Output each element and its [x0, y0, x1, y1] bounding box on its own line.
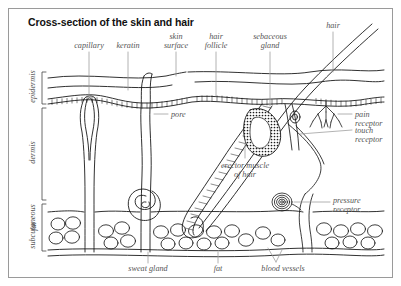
sebaceous-gland: [244, 108, 281, 156]
label-sebaceous-gland-line2: gland: [240, 41, 300, 50]
label-touch-receptor-line2: receptor: [355, 135, 401, 144]
label-pressure-receptor-line2: receptor: [333, 205, 393, 214]
label-pressure-receptor-line1: pressure: [333, 196, 393, 205]
label-touch-receptor-line1: touch: [355, 126, 399, 135]
label-pore: pore: [171, 110, 211, 119]
label-blood-vessels: blood vessels: [246, 264, 320, 273]
label-hair-follicle-line2: follicle: [190, 41, 242, 50]
skin-cross-section-figure: Cross-section of the skin and hair: [0, 0, 401, 286]
basal-layer-band: [48, 95, 384, 108]
label-keratin: keratin: [100, 41, 156, 50]
label-sweat-gland: sweat gland: [110, 264, 186, 273]
label-erector-muscle-line2: of hair: [204, 170, 286, 179]
layer-label-epidermis: epidermis: [28, 57, 37, 117]
label-erector-muscle-line1: erector muscle: [204, 161, 286, 170]
label-pain-receptor-line1: pain: [355, 110, 399, 119]
sweat-gland-coil: [128, 189, 160, 220]
pore-duct: [141, 73, 152, 252]
fat-cells: [49, 217, 383, 250]
label-hair-follicle-line1: hair: [190, 32, 242, 41]
label-hair: hair: [308, 21, 358, 30]
layer-label-fat: fat: [29, 206, 38, 248]
capillary-loop: [80, 96, 98, 252]
layer-brackets: [42, 72, 46, 251]
label-fat: fat: [204, 264, 232, 273]
layer-label-dermis: dermis: [28, 125, 37, 181]
label-sebaceous-gland-line1: sebaceous: [240, 32, 300, 41]
fat-layer-boundaries: [48, 211, 384, 257]
